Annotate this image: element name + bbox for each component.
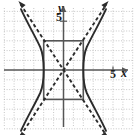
hyperbola-graph-figure: y 5 5 x — [0, 0, 136, 135]
x-axis-label: x — [121, 67, 127, 79]
y-axis-tick-label-5: 5 — [56, 11, 62, 23]
x-axis-tick-label-5: 5 — [110, 68, 116, 80]
